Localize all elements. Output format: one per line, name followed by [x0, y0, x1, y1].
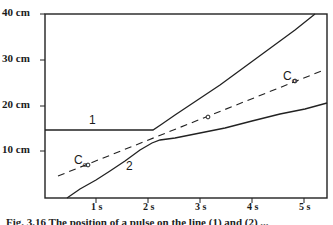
c0-label-right: Co [283, 69, 296, 85]
c0-right-letter: C [283, 69, 292, 83]
x-label-5: 5 s [299, 201, 310, 212]
c0-left-subscript: o [83, 160, 87, 169]
curve-1-label: 1 [89, 113, 96, 127]
y-ticks [40, 14, 45, 151]
curve-1 [45, 14, 315, 130]
c0-right-subscript: o [292, 76, 296, 85]
chart-canvas [0, 0, 333, 225]
marker-c0-mid [206, 115, 210, 119]
y-label-20: 20 cm [2, 98, 30, 110]
figure-caption: Fig. 3.16 The position of a pulse on the… [6, 216, 269, 225]
curve-2-label: 2 [126, 159, 133, 173]
y-label-30: 30 cm [2, 52, 30, 64]
x-label-2: 2 s [143, 201, 154, 212]
curve-c0 [58, 70, 324, 176]
y-label-40: 40 cm [2, 6, 30, 18]
c0-label-left: Co [74, 153, 87, 169]
x-label-3: 3 s [195, 201, 206, 212]
y-label-10: 10 cm [2, 143, 30, 155]
plot-frame [45, 14, 327, 198]
curve-2 [67, 103, 327, 198]
x-label-1: 1 s [91, 201, 102, 212]
c0-left-letter: C [74, 153, 83, 167]
x-label-4: 4 s [247, 201, 258, 212]
